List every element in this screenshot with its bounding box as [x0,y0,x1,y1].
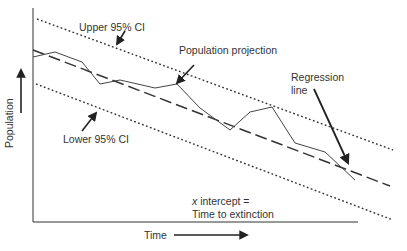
x-axis-label: Time [144,229,167,241]
population-projection-arrow [177,65,194,83]
regression-label-line2: line [291,84,307,96]
lower-ci-arrow [82,113,96,131]
regression-line-arrow [314,89,348,163]
x-intercept-label: x intercept = [192,195,250,207]
y-axis-label: Population [3,98,15,148]
x-intercept-text: intercept = [197,195,249,207]
population-projection-label: Population projection [179,44,277,56]
lower-ci-label: Lower 95% CI [63,133,129,145]
upper-ci-line [37,19,393,150]
regression-label-line1: Regression [291,71,344,83]
time-to-extinction-label: Time to extinction [192,208,274,220]
upper-ci-label: Upper 95% CI [79,21,145,33]
